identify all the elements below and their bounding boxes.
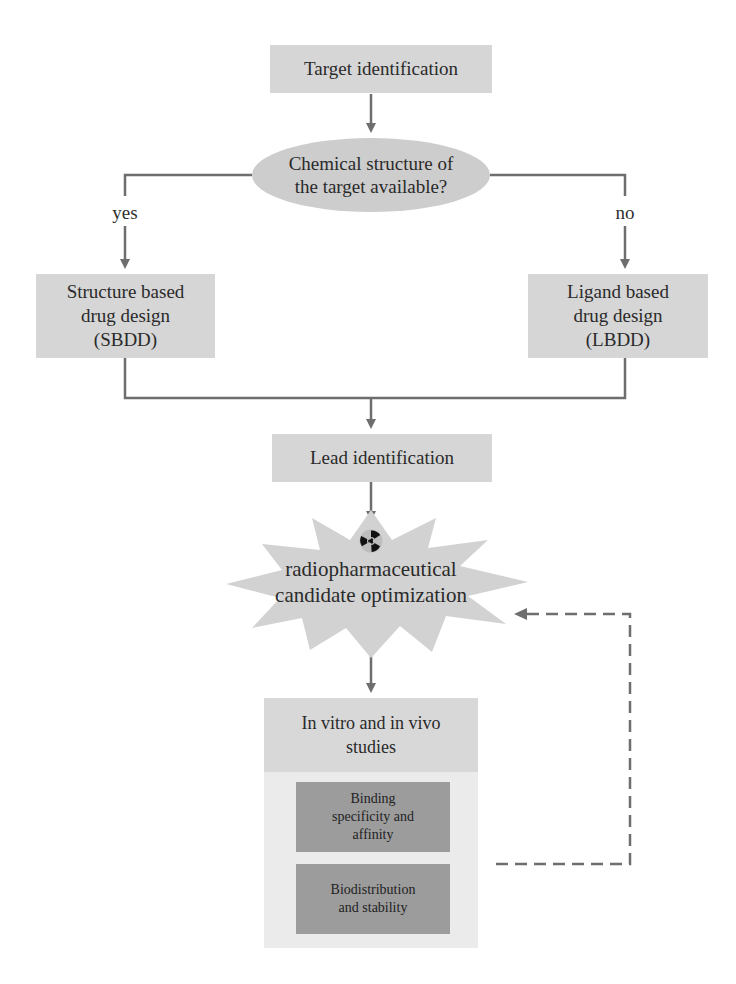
no-label: no xyxy=(607,200,643,226)
lead-identification-box: Lead identification xyxy=(272,434,492,482)
target-identification-label: Target identification xyxy=(304,57,458,81)
studies-container: In vitro and in vivo studies Binding spe… xyxy=(264,698,478,948)
yes-label: yes xyxy=(105,200,145,226)
lead-identification-label: Lead identification xyxy=(310,446,454,470)
dashed-feedback-loop xyxy=(496,614,630,864)
optimization-line1: radiopharmaceutical xyxy=(246,556,496,582)
studies-header: In vitro and in vivo studies xyxy=(264,698,478,772)
line-merge xyxy=(125,358,625,398)
binding-specificity-box: Binding specificity and affinity xyxy=(296,782,450,852)
sbdd-box: Structure based drug design (SBDD) xyxy=(36,274,215,358)
decision-label-line2: the target available? xyxy=(289,175,454,198)
binding-line3: affinity xyxy=(332,826,414,844)
decision-label-line1: Chemical structure of xyxy=(289,152,454,175)
sbdd-line1: Structure based xyxy=(67,280,185,304)
sbdd-line2: drug design xyxy=(67,304,185,328)
studies-header-line1: In vitro and in vivo xyxy=(302,711,441,735)
lbdd-line2: drug design xyxy=(567,304,669,328)
sbdd-line3: (SBDD) xyxy=(67,328,185,352)
lbdd-line3: (LBDD) xyxy=(567,328,669,352)
decision-ellipse: Chemical structure of the target availab… xyxy=(252,138,490,212)
biodistribution-line2: and stability xyxy=(331,899,416,917)
lbdd-box: Ligand based drug design (LBDD) xyxy=(528,274,708,358)
binding-line2: specificity and xyxy=(332,808,414,826)
target-identification-box: Target identification xyxy=(270,45,492,93)
feedback-arrowhead-icon xyxy=(514,608,527,620)
biodistribution-line1: Biodistribution xyxy=(331,881,416,899)
line-no-branch xyxy=(490,175,625,196)
studies-header-line2: studies xyxy=(302,735,441,759)
optimization-label: radiopharmaceutical candidate optimizati… xyxy=(246,556,496,608)
line-yes-branch xyxy=(125,175,252,196)
binding-line1: Binding xyxy=(332,790,414,808)
biodistribution-box: Biodistribution and stability xyxy=(296,864,450,934)
radiation-icon xyxy=(359,529,383,553)
lbdd-line1: Ligand based xyxy=(567,280,669,304)
optimization-line2: candidate optimization xyxy=(246,582,496,608)
